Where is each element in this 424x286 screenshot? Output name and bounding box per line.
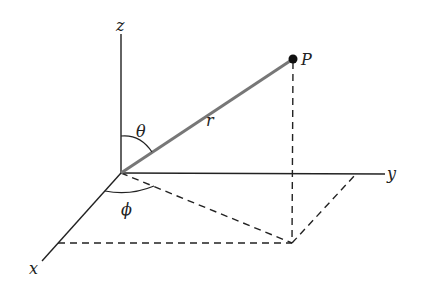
x-axis — [42, 173, 121, 261]
point-p — [289, 55, 298, 64]
phi-label: ϕ — [121, 200, 132, 219]
phi-arc — [105, 186, 154, 193]
y-axis-label: y — [386, 164, 397, 183]
y-parallel-dashed-line — [292, 174, 356, 243]
radius-label: r — [206, 111, 215, 130]
vertical-projection-line — [292, 62, 293, 243]
z-axis-label: z — [115, 16, 125, 35]
theta-label: θ — [136, 122, 146, 141]
x-axis-label: x — [29, 259, 38, 278]
xy-projection-line — [121, 173, 292, 243]
y-axis — [121, 173, 385, 174]
spherical-coordinates-diagram: z y x P r θ ϕ — [0, 0, 424, 286]
point-label: P — [300, 50, 312, 69]
